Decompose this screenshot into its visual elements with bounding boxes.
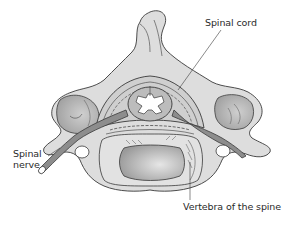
right-articular-facet [215, 95, 254, 130]
vertebra-diagram [0, 0, 289, 231]
left-foramen [75, 146, 89, 158]
label-spinal-nerve: Spinal nerve [13, 148, 47, 170]
right-foramen [216, 145, 230, 157]
label-spinal-cord: Spinal cord [205, 17, 257, 28]
label-spinal-nerve-line2: nerve [13, 159, 47, 170]
label-vertebra: Vertebra of the spine [183, 201, 281, 212]
vertebral-body-center [120, 145, 185, 181]
label-spinal-nerve-line1: Spinal [13, 148, 47, 159]
